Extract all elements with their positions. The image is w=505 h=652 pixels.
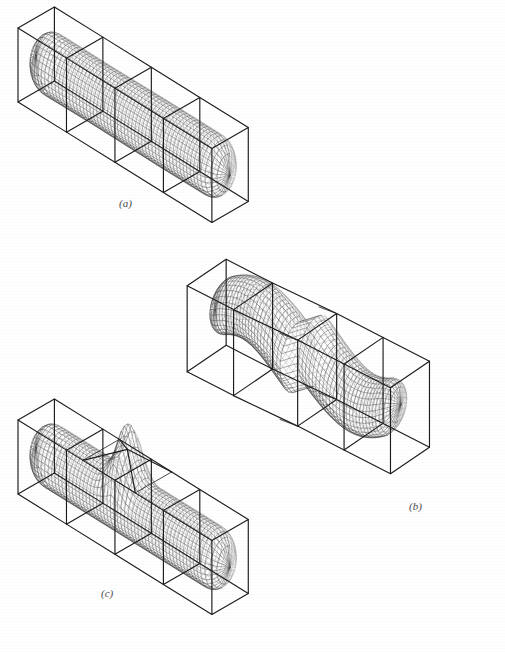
panel-label-c: (c) (101, 587, 114, 600)
panel-label-b: (b) (409, 500, 422, 513)
panel-label-a: (a) (119, 197, 132, 210)
figure-svg: (a) (b) (c) (0, 0, 505, 652)
figure-canvas: (a) (b) (c) (0, 0, 505, 652)
